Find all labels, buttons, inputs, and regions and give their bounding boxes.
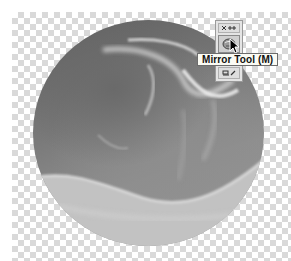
editor-stage: Mirror Tool (M) — [0, 0, 291, 261]
arrow-cursor-icon — [229, 38, 239, 54]
brush-icon — [221, 69, 237, 77]
mirror-tool-tooltip: Mirror Tool (M) — [197, 53, 278, 66]
zoom-icon — [221, 25, 237, 31]
zoom-tool-button[interactable] — [218, 23, 240, 33]
paint-tool-button[interactable] — [218, 67, 240, 79]
